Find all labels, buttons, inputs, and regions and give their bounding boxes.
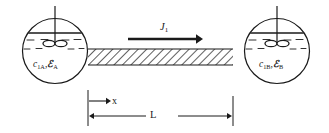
dimension-L-arrowhead-right bbox=[227, 113, 232, 119]
dimension-x-arrowhead bbox=[106, 98, 111, 104]
dimension-x bbox=[88, 90, 111, 126]
vessel-B-concentration-subscript: 1B bbox=[263, 63, 270, 70]
vessel-A-energy-subscript: A bbox=[53, 63, 58, 70]
dimension-x-label: x bbox=[112, 96, 117, 106]
vessel-A-label: c1A,ℰA bbox=[33, 59, 58, 70]
vessel-A-group bbox=[20, 6, 90, 84]
flux-subscript: 1 bbox=[165, 26, 168, 33]
flux-arrow-head bbox=[196, 34, 203, 44]
vessel-A-concentration-subscript: 1A bbox=[37, 63, 45, 70]
vessel-B-label: c1B,ℰB bbox=[259, 59, 283, 70]
diffusion-cell-figure: c1A,ℰA c1B,ℰB J1 x L bbox=[0, 0, 329, 133]
vessel-B-group bbox=[242, 6, 312, 84]
flux-arrow bbox=[128, 34, 203, 44]
flux-label: J1 bbox=[160, 22, 168, 34]
dimension-L bbox=[89, 96, 233, 126]
tube-hatch-fill bbox=[88, 49, 233, 65]
vessel-B-energy-subscript: B bbox=[279, 63, 283, 70]
capillary-tube bbox=[88, 49, 233, 65]
dimension-L-label: L bbox=[150, 110, 156, 121]
dimension-L-arrowhead-left bbox=[89, 113, 94, 119]
